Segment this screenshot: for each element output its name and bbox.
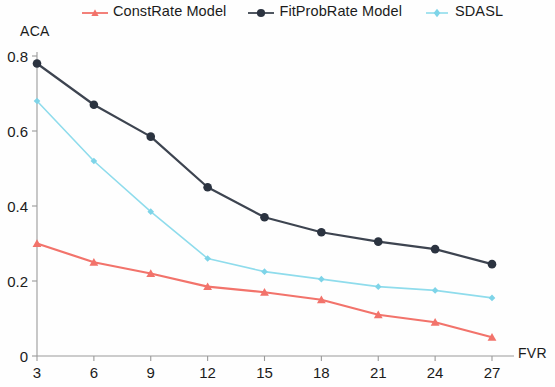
x-tick-label: 18 [313, 364, 330, 381]
data-point-circle [374, 237, 383, 246]
x-tick-label: 21 [370, 364, 387, 381]
y-tick-label: 0.6 [7, 123, 28, 140]
data-point-circle [488, 260, 497, 269]
series-layer [33, 59, 497, 340]
x-tick-label: 27 [484, 364, 501, 381]
data-point-triangle [33, 239, 42, 247]
chart-container: ConstRate Model FitProbRate Model SDASL … [0, 0, 555, 387]
x-tick-label: 12 [199, 364, 216, 381]
data-point-circle [260, 213, 269, 222]
series-line [37, 64, 492, 265]
y-tick-label: 0.8 [7, 48, 28, 65]
data-point-circle [33, 59, 42, 68]
data-point-diamond [375, 283, 382, 290]
y-tick-label: 0 [20, 348, 28, 365]
data-point-diamond [318, 276, 325, 283]
series-fitprobrate-model [33, 59, 497, 268]
x-tick-label: 3 [33, 364, 41, 381]
x-tick-label: 9 [147, 364, 155, 381]
y-tick-label: 0.4 [7, 198, 28, 215]
data-point-circle [203, 183, 212, 192]
series-sdasl [34, 98, 496, 301]
x-tick-label: 6 [90, 364, 98, 381]
data-point-diamond [261, 268, 268, 275]
x-axis-ticks: 369121518212427 [33, 356, 501, 381]
y-tick-label: 0.2 [7, 273, 28, 290]
data-point-diamond [489, 295, 496, 302]
data-point-circle [146, 132, 155, 141]
y-axis-ticks: 00.20.40.60.8 [7, 48, 37, 365]
data-point-diamond [432, 287, 439, 294]
data-point-circle [317, 228, 326, 237]
data-point-circle [90, 100, 99, 109]
x-tick-label: 15 [256, 364, 273, 381]
x-tick-label: 24 [427, 364, 444, 381]
data-point-circle [431, 245, 440, 254]
plot-area: 00.20.40.60.8 369121518212427 [0, 0, 555, 387]
